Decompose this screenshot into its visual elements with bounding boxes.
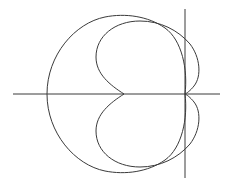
diagram-canvas bbox=[0, 0, 232, 186]
polar-plot bbox=[0, 0, 232, 186]
inner-upper-lobe bbox=[96, 21, 199, 94]
inner-lower-lobe bbox=[96, 94, 199, 167]
